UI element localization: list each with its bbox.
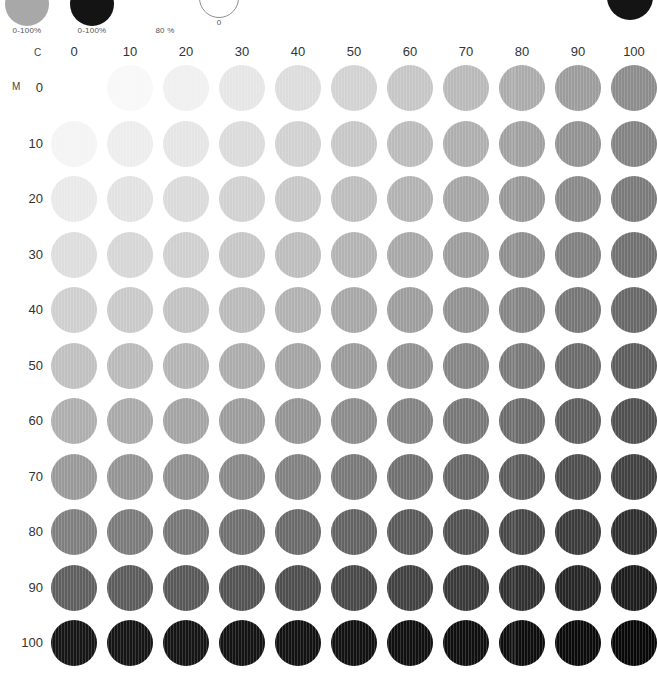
tint-cell-c30-m80 — [219, 509, 265, 555]
tint-cell-c0-m80 — [51, 509, 97, 555]
tint-cell-c30-m90 — [219, 565, 265, 611]
tint-disc — [499, 232, 545, 278]
tint-cell-c0-m10 — [51, 121, 97, 167]
tint-disc — [275, 509, 321, 555]
tint-cell-c0-m0 — [51, 65, 97, 111]
row-header-m-80: 80 — [13, 525, 43, 539]
tint-disc — [331, 343, 377, 389]
tint-cell-c60-m90 — [387, 565, 433, 611]
tint-disc — [387, 454, 433, 500]
tint-cell-c20-m80 — [163, 509, 209, 555]
tint-disc — [611, 398, 657, 444]
tint-disc — [163, 620, 209, 666]
black-corner-swatch-dot — [607, 0, 653, 20]
tint-disc — [275, 454, 321, 500]
tint-disc — [107, 620, 153, 666]
tint-cell-c10-m20 — [107, 176, 153, 222]
tint-cell-c60-m70 — [387, 454, 433, 500]
tint-cell-c80-m100 — [499, 620, 545, 666]
tint-disc — [499, 620, 545, 666]
tint-cell-c80-m50 — [499, 343, 545, 389]
tint-disc — [499, 176, 545, 222]
tint-disc — [275, 343, 321, 389]
tint-cell-c80-m30 — [499, 232, 545, 278]
tint-disc — [163, 398, 209, 444]
tint-cell-c70-m10 — [443, 121, 489, 167]
tint-cell-c90-m0 — [555, 65, 601, 111]
tint-disc — [611, 232, 657, 278]
tint-cell-c30-m30 — [219, 232, 265, 278]
gray-solid-swatch-dot — [5, 0, 49, 26]
tint-cell-c50-m20 — [331, 176, 377, 222]
tint-disc — [387, 343, 433, 389]
tint-cell-c100-m80 — [611, 509, 657, 555]
tint-cell-c0-m20 — [51, 176, 97, 222]
tint-disc — [443, 287, 489, 333]
tint-disc — [163, 232, 209, 278]
tint-disc — [443, 343, 489, 389]
tint-disc — [107, 565, 153, 611]
tint-cell-c60-m40 — [387, 287, 433, 333]
tint-disc — [611, 620, 657, 666]
tint-cell-c90-m50 — [555, 343, 601, 389]
tint-cell-c40-m90 — [275, 565, 321, 611]
column-header-c-10: 10 — [107, 45, 153, 59]
tint-disc — [443, 454, 489, 500]
tint-cell-c40-m50 — [275, 343, 321, 389]
tint-cell-c80-m70 — [499, 454, 545, 500]
column-header-c-70: 70 — [443, 45, 489, 59]
tint-cell-c90-m60 — [555, 398, 601, 444]
tint-cell-c80-m0 — [499, 65, 545, 111]
tint-disc — [51, 565, 97, 611]
tint-cell-c100-m0 — [611, 65, 657, 111]
tint-disc — [499, 343, 545, 389]
tint-cell-c50-m100 — [331, 620, 377, 666]
tint-cell-c40-m0 — [275, 65, 321, 111]
tint-cell-c20-m40 — [163, 287, 209, 333]
column-header-c-60: 60 — [387, 45, 433, 59]
tint-disc — [611, 454, 657, 500]
tint-cell-c0-m30 — [51, 232, 97, 278]
tint-cell-c40-m30 — [275, 232, 321, 278]
tint-cell-c0-m40 — [51, 287, 97, 333]
tint-disc — [499, 398, 545, 444]
tint-disc — [443, 232, 489, 278]
tint-cell-c50-m30 — [331, 232, 377, 278]
tint-cell-c0-m100 — [51, 620, 97, 666]
tint-disc — [51, 509, 97, 555]
cmyk-tint-grid: C M 010203040506070809010001020304050607… — [0, 40, 653, 677]
tint-cell-c0-m60 — [51, 398, 97, 444]
tint-cell-c60-m10 — [387, 121, 433, 167]
column-header-c-30: 30 — [219, 45, 265, 59]
tint-cell-c50-m80 — [331, 509, 377, 555]
tint-cell-c90-m70 — [555, 454, 601, 500]
tint-disc — [219, 565, 265, 611]
row-header-m-40: 40 — [13, 303, 43, 317]
tint-cell-c100-m100 — [611, 620, 657, 666]
row-header-m-100: 100 — [13, 636, 43, 650]
tint-cell-c50-m60 — [331, 398, 377, 444]
tint-disc — [387, 509, 433, 555]
tint-disc — [163, 343, 209, 389]
tint-cell-c80-m20 — [499, 176, 545, 222]
tint-disc — [387, 65, 433, 111]
tint-cell-c70-m20 — [443, 176, 489, 222]
tint-disc — [163, 454, 209, 500]
tint-cell-c10-m90 — [107, 565, 153, 611]
row-header-m-0: 0 — [13, 81, 43, 95]
black-solid-swatch: 0-100% — [70, 0, 114, 36]
tint-disc — [555, 565, 601, 611]
tint-disc — [555, 343, 601, 389]
tint-disc — [331, 121, 377, 167]
tint-percent-label: 80 % — [143, 0, 187, 36]
tint-cell-c70-m30 — [443, 232, 489, 278]
tint-disc — [555, 65, 601, 111]
tint-cell-c20-m30 — [163, 232, 209, 278]
tint-disc — [611, 343, 657, 389]
tint-cell-c70-m100 — [443, 620, 489, 666]
reference-swatch-strip: 0-100%0-100%80 %0 — [0, 0, 653, 40]
tint-cell-c100-m90 — [611, 565, 657, 611]
tint-disc — [107, 65, 153, 111]
tint-cell-c90-m100 — [555, 620, 601, 666]
tint-disc — [163, 509, 209, 555]
